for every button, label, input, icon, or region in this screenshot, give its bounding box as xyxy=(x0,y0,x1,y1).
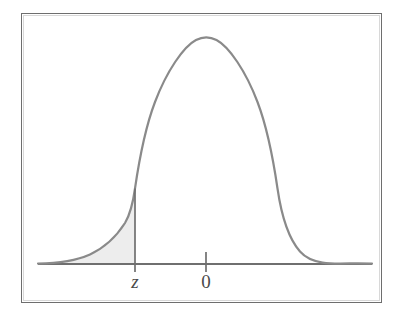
shaded-left-tail-area xyxy=(38,189,135,265)
bell-curve-path xyxy=(38,37,372,263)
figure-root: z 0 xyxy=(0,0,400,319)
x-axis-tick-label-z: z xyxy=(115,272,155,291)
x-axis-tick-label-zero: 0 xyxy=(186,272,226,291)
